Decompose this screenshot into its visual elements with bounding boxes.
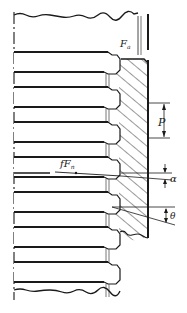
thread-diagram: P fFn α θ Fa <box>0 0 187 313</box>
pitch-arrow-top <box>162 104 166 110</box>
axial-force-label: Fa <box>119 38 131 50</box>
thread-tooth <box>14 192 120 214</box>
theta-label: θ <box>170 211 176 221</box>
theta-arrowhead-top <box>164 208 168 213</box>
alpha-label: α <box>170 173 177 184</box>
pitch-arrow-bottom <box>162 131 166 137</box>
top-break-line <box>14 11 138 20</box>
screw-threads <box>14 52 120 297</box>
thread-tooth <box>14 122 120 144</box>
alpha-arrowhead-top <box>163 168 167 173</box>
pitch-label: P <box>157 116 166 129</box>
bottom-break-line <box>14 287 120 295</box>
thread-tooth <box>14 52 120 74</box>
thread-tooth <box>14 227 120 249</box>
thread-tooth <box>14 87 120 109</box>
thread-tooth <box>14 262 120 284</box>
friction-force-point <box>75 172 77 174</box>
